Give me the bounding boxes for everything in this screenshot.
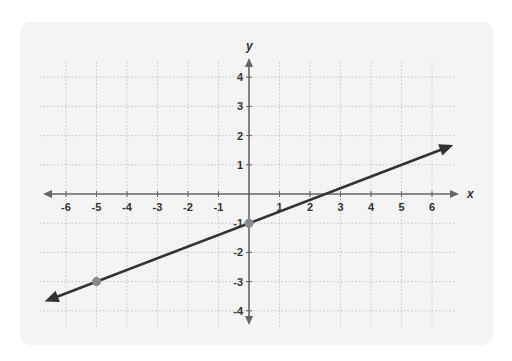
x-tick-label: 4 xyxy=(368,201,375,213)
y-tick-label: -2 xyxy=(233,246,243,258)
y-axis-up-arrow-icon xyxy=(245,58,253,67)
line-left-arrow-icon xyxy=(45,291,60,302)
x-tick-label: -6 xyxy=(61,201,71,213)
coordinate-plane: -6-5-4-3-2-11234564321-1-2-3-4 x y xyxy=(0,0,512,361)
data-point xyxy=(92,277,101,286)
x-tick-label: 6 xyxy=(429,201,435,213)
axes xyxy=(43,58,459,325)
x-axis-label: x xyxy=(466,187,475,201)
x-tick-label: -1 xyxy=(214,201,224,213)
x-tick-label: 5 xyxy=(398,201,404,213)
y-tick-label: 2 xyxy=(237,130,243,142)
x-tick-label: 3 xyxy=(337,201,343,213)
y-axis-down-arrow-icon xyxy=(245,316,253,325)
x-axis-right-arrow-icon xyxy=(450,190,459,198)
data-point xyxy=(245,219,254,228)
x-tick-label: -3 xyxy=(153,201,163,213)
y-tick-label: 4 xyxy=(237,71,244,83)
y-tick-label: 1 xyxy=(237,159,243,171)
x-tick-label: -2 xyxy=(183,201,193,213)
x-tick-label: 2 xyxy=(307,201,313,213)
y-axis-label: y xyxy=(245,39,254,53)
y-tick-label: -3 xyxy=(233,276,243,288)
y-tick-label: -4 xyxy=(233,305,244,317)
x-axis-left-arrow-icon xyxy=(43,190,52,198)
x-tick-label: -4 xyxy=(122,201,133,213)
line-right-arrow-icon xyxy=(438,144,453,155)
x-tick-label: -5 xyxy=(92,201,102,213)
y-tick-label: 3 xyxy=(237,100,243,112)
